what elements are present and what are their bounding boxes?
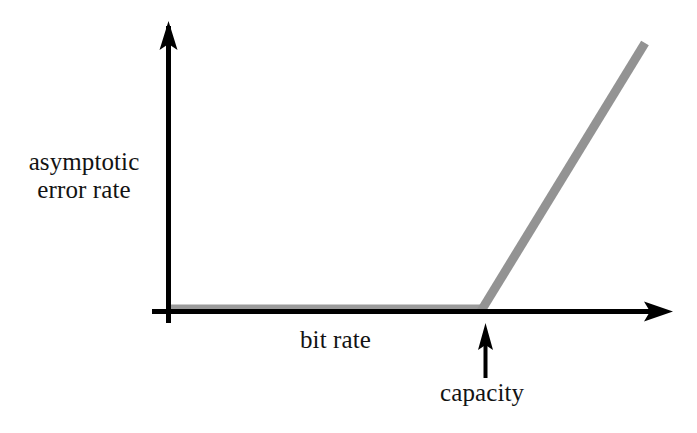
curve-rising-segment <box>481 43 645 311</box>
capacity-pointer <box>478 323 493 378</box>
figure-container: asymptoticerror rate bit rate capacity <box>0 0 697 433</box>
chart-svg <box>0 0 697 433</box>
y-axis <box>160 21 178 323</box>
data-curve <box>171 43 645 311</box>
y-axis-label-line1: asymptotic <box>29 148 140 175</box>
y-axis-label: asymptoticerror rate <box>14 148 154 204</box>
y-axis-label-line2: error rate <box>37 176 130 203</box>
x-axis-label: bit rate <box>300 326 371 354</box>
capacity-label: capacity <box>440 379 524 407</box>
